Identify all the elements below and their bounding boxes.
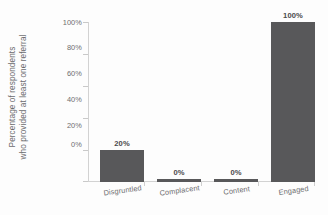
bar-content <box>214 179 258 182</box>
bar-disgruntled <box>100 150 144 182</box>
bar-value-engaged: 100% <box>271 11 315 20</box>
y-tick-label-60: 60% <box>54 69 82 78</box>
y-tick-mark-20 <box>83 150 88 151</box>
x-axis-category-labels: Disgruntled Complacent Content Engaged <box>88 186 315 214</box>
y-tick-mark-60 <box>83 86 88 87</box>
bar-group-complacent: 0% <box>157 22 201 182</box>
y-tick-label-80: 80% <box>54 43 82 52</box>
y-axis-line <box>88 22 89 182</box>
y-tick-label-0: 0% <box>54 140 82 149</box>
bar-group-engaged: 100% <box>271 22 315 182</box>
y-axis-title: Percentage of respondents who provided a… <box>0 0 34 200</box>
y-tick-mark-80 <box>83 54 88 55</box>
plot-area: 20% 0% 0% 100% <box>88 22 315 182</box>
y-tick-label-20: 20% <box>54 121 82 130</box>
y-tick-label-100: 100% <box>54 18 82 27</box>
y-tick-mark-0 <box>83 181 88 182</box>
y-axis-title-line-2: who provided at least one referral <box>18 7 29 187</box>
y-tick-mark-100 <box>83 22 88 23</box>
bar-value-disgruntled: 20% <box>100 139 144 148</box>
bar-chart: Percentage of respondents who provided a… <box>0 0 328 215</box>
y-axis-title-line-1: Percentage of respondents <box>7 7 18 187</box>
y-tick-mark-40 <box>83 118 88 119</box>
bar-value-content: 0% <box>214 168 258 177</box>
bar-group-disgruntled: 20% <box>100 22 144 182</box>
bar-value-complacent: 0% <box>157 168 201 177</box>
bar-group-content: 0% <box>214 22 258 182</box>
y-axis-tick-labels: 0% 20% 40% 60% 80% 100% <box>52 0 82 200</box>
y-tick-label-40: 40% <box>54 95 82 104</box>
bar-complacent <box>157 179 201 182</box>
bar-engaged <box>271 22 315 182</box>
